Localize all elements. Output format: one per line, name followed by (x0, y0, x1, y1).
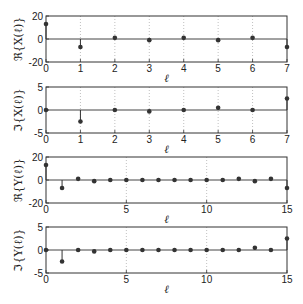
x-tick-label: 2 (112, 63, 118, 74)
x-axis-label: ℓ (164, 143, 169, 156)
stem-marker (124, 178, 129, 183)
x-tick-label: 0 (43, 63, 49, 74)
stem-marker (113, 108, 118, 113)
x-tick-label: 15 (281, 274, 293, 285)
stem-marker (285, 96, 290, 101)
y-axis-label: ℜ{X(ℓ)} (12, 17, 25, 62)
y-tick-label: 0 (37, 34, 43, 45)
stem-marker (108, 248, 113, 253)
stem-marker (220, 178, 225, 183)
stem-marker (285, 236, 290, 241)
stem-marker (188, 248, 193, 253)
x-tick-label: 5 (215, 134, 221, 145)
stem-marker (44, 163, 49, 168)
x-tick-label: 3 (147, 63, 153, 74)
stem-marker (285, 45, 290, 50)
stem-marker (188, 178, 193, 183)
y-tick-label: -5 (34, 128, 43, 139)
y-tick-label: 20 (32, 11, 44, 22)
stem-marker (269, 248, 274, 253)
y-tick-label: -20 (29, 198, 44, 209)
x-tick-label: 1 (78, 63, 84, 74)
stem-marker (156, 178, 161, 183)
stem-marker (113, 36, 118, 41)
stem-marker (60, 186, 65, 191)
stem-marker (237, 248, 242, 253)
y-tick-label: 5 (37, 222, 43, 233)
stem-marker (147, 38, 152, 43)
x-axis-label: ℓ (164, 72, 169, 85)
x-axis-label: ℓ (164, 283, 169, 296)
y-tick-label: -5 (34, 268, 43, 279)
stem-marker (78, 45, 83, 50)
y-axis-label: ℑ{X(ℓ)} (12, 88, 25, 132)
stem-marker (140, 178, 145, 183)
subplot-2: -50501234567ℑ{X(ℓ)}ℓ (12, 82, 290, 157)
x-tick-label: 5 (215, 63, 221, 74)
y-tick-label: 0 (37, 175, 43, 186)
stem-marker (220, 248, 225, 253)
stem-marker (172, 248, 177, 253)
x-tick-label: 3 (147, 134, 153, 145)
x-tick-label: 0 (43, 204, 49, 215)
stem-marker (250, 36, 255, 41)
x-tick-label: 1 (78, 134, 84, 145)
stem-marker (204, 248, 209, 253)
stem-marker (78, 119, 83, 124)
stem-marker (285, 186, 290, 191)
y-tick-label: 20 (32, 152, 44, 163)
stem-marker (60, 259, 65, 264)
stem-marker (250, 108, 255, 113)
stem-marker (44, 22, 49, 27)
x-axis-label: ℓ (164, 213, 169, 226)
stem-marker (147, 109, 152, 114)
stem-marker (44, 248, 49, 253)
stem-marker (44, 108, 49, 113)
x-tick-label: 4 (181, 134, 187, 145)
stem-marker (181, 36, 186, 41)
x-tick-label: 0 (43, 274, 49, 285)
stem-marker (216, 105, 221, 110)
stem-marker (76, 248, 81, 253)
stem-marker (237, 177, 242, 182)
x-tick-label: 0 (43, 134, 49, 145)
y-tick-label: -20 (29, 57, 44, 68)
subplot-3: -20020051015ℜ{Y(ℓ)}ℓ (12, 152, 293, 227)
y-axis-label: ℜ{Y(ℓ)} (12, 158, 25, 202)
stem-marker (124, 248, 129, 253)
x-tick-label: 5 (124, 204, 130, 215)
stem-marker (108, 178, 113, 183)
stem-marker (92, 179, 97, 184)
x-tick-label: 10 (201, 204, 213, 215)
stem-marker (216, 38, 221, 43)
stem-marker (172, 178, 177, 183)
stem-marker (181, 108, 186, 113)
x-tick-label: 7 (284, 63, 290, 74)
x-tick-label: 6 (250, 63, 256, 74)
stem-marker (204, 178, 209, 183)
x-tick-label: 2 (112, 134, 118, 145)
subplot-4: -505051015ℑ{Y(ℓ)}ℓ (12, 222, 293, 297)
stem-marker (253, 179, 258, 184)
y-axis-label: ℑ{Y(ℓ)} (12, 228, 25, 271)
y-tick-label: 0 (37, 245, 43, 256)
x-tick-label: 7 (284, 134, 290, 145)
y-tick-label: 0 (37, 105, 43, 116)
stem-marker (269, 177, 274, 182)
stem-marker (156, 248, 161, 253)
x-tick-label: 6 (250, 134, 256, 145)
stem-marker (92, 249, 97, 254)
x-tick-label: 5 (124, 274, 130, 285)
stem-marker (253, 245, 258, 250)
y-tick-label: 5 (37, 82, 43, 93)
subplot-1: -2002001234567ℜ{X(ℓ)}ℓ (12, 11, 290, 86)
stem-marker (140, 248, 145, 253)
stem-plot-figure: -2002001234567ℜ{X(ℓ)}ℓ-50501234567ℑ{X(ℓ)… (0, 0, 303, 304)
stem-marker (76, 177, 81, 182)
x-tick-label: 4 (181, 63, 187, 74)
x-tick-label: 10 (201, 274, 213, 285)
x-tick-label: 15 (281, 204, 293, 215)
